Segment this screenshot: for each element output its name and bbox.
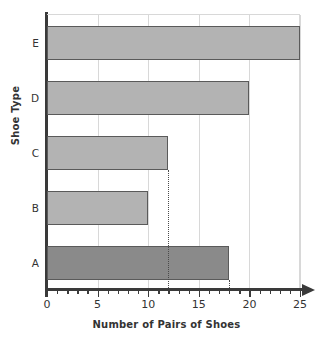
x-axis-minor-tick [179,289,180,294]
x-axis-major-tick [98,289,99,297]
y-axis-title: Shoe Type [10,68,21,164]
x-axis-tick-label: 0 [44,298,51,311]
x-axis-minor-tick [57,289,58,294]
x-axis-major-tick [249,289,250,297]
reference-line [168,170,169,291]
x-axis-arrow-icon [302,284,315,296]
y-axis-tick-label: C [32,147,39,159]
x-axis-minor-tick [219,289,220,294]
x-axis-minor-tick [168,289,169,294]
x-axis-tick-label: 5 [94,298,101,311]
x-axis-tick-label: 25 [293,298,307,311]
x-axis-minor-tick [108,289,109,294]
x-axis-minor-tick [189,289,190,294]
x-axis-tick-label: 15 [192,298,206,311]
bar [47,191,148,225]
x-axis-minor-tick [67,289,68,294]
bar [47,246,229,280]
y-axis-tick-label: B [32,202,39,214]
x-axis-minor-tick [270,289,271,294]
x-axis-tick-label: 10 [141,298,155,311]
x-axis-major-tick [148,289,149,297]
x-axis-minor-tick [260,289,261,294]
x-axis-minor-tick [209,289,210,294]
x-axis-line [45,288,303,291]
bar-chart: Shoe Type ABCDE 0510152025 Number of Pai… [0,0,333,339]
gridline [300,15,301,289]
bar [47,136,168,170]
x-axis-minor-tick [77,289,78,294]
y-axis-tick-label: D [31,92,39,104]
x-axis-major-tick [300,289,301,297]
x-axis-minor-tick [280,289,281,294]
x-axis-minor-tick [128,289,129,294]
x-axis-major-tick [47,289,48,297]
bar [47,26,300,60]
x-axis-minor-tick [158,289,159,294]
x-axis-tick-label: 20 [242,298,256,311]
x-axis-minor-tick [229,289,230,294]
x-axis-minor-tick [239,289,240,294]
x-axis-minor-tick [138,289,139,294]
x-axis-title: Number of Pairs of Shoes [0,319,333,330]
x-axis-minor-tick [87,289,88,294]
x-axis-major-tick [199,289,200,297]
plot-area: ABCDE [47,14,300,289]
x-axis-minor-tick [290,289,291,294]
x-axis-minor-tick [118,289,119,294]
y-axis-tick-label: A [32,257,39,269]
bar [47,81,249,115]
y-axis-tick-label: E [32,37,39,49]
